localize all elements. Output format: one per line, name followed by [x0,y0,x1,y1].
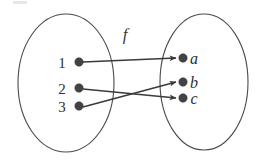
domain-node-dot [75,102,83,110]
domain-node-dot [75,84,83,92]
diagram-canvas: 123 abc f [0,0,256,164]
function-mapping-figure: 123 abc f [0,0,256,164]
domain-elements: 123 [58,55,83,115]
domain-element-label: 1 [58,55,66,71]
codomain-elements: abc [179,50,198,107]
mapping-arrow-2-to-c [83,89,176,98]
codomain-element-label: c [190,90,197,107]
scan-artifact [13,1,27,4]
domain-node-dot [75,58,83,66]
function-label: f [123,25,130,44]
codomain-node-dot [179,78,187,86]
domain-element-label: 3 [58,99,66,115]
codomain-node-dot [179,54,187,62]
domain-set-outline [18,14,114,152]
domain-element-label: 2 [58,81,66,97]
codomain-element-label: a [190,50,198,67]
codomain-element-label: b [190,74,198,91]
mapping-arrows [83,58,176,107]
codomain-node-dot [179,94,187,102]
